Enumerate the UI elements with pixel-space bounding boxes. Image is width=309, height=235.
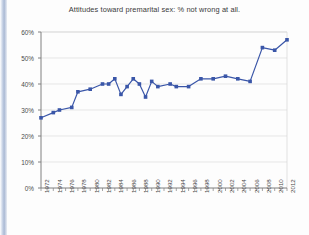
data-point-marker — [88, 87, 92, 91]
data-point-marker — [175, 85, 179, 89]
y-axis-tick-label: 50% — [12, 55, 34, 62]
x-axis-tick-label: 1980 — [93, 179, 100, 193]
data-point-marker — [236, 77, 240, 81]
data-point-marker — [144, 95, 148, 99]
data-point-marker — [187, 85, 191, 89]
data-point-marker — [113, 77, 117, 81]
y-axis-tick-label: 10% — [12, 159, 34, 166]
x-axis-tick-label: 2010 — [277, 179, 284, 193]
y-axis-tick-label: 40% — [12, 81, 34, 88]
y-axis-tick-label: 60% — [12, 29, 34, 36]
x-axis-tick-label: 2006 — [253, 179, 260, 193]
data-point-marker — [211, 77, 215, 81]
x-axis-tick-label: 1982 — [105, 179, 112, 193]
x-axis-tick-label: 1984 — [117, 179, 124, 193]
data-point-marker — [273, 48, 277, 52]
data-point-marker — [125, 85, 129, 89]
data-point-marker — [119, 93, 123, 97]
x-axis-tick-label: 2002 — [228, 179, 235, 193]
data-point-marker — [199, 77, 203, 81]
series-line — [41, 40, 287, 118]
x-axis-tick-label: 1972 — [43, 179, 50, 193]
data-point-marker — [150, 80, 154, 84]
x-axis-tick-label: 1978 — [80, 179, 87, 193]
data-point-marker — [138, 82, 142, 86]
plot-area: 0%10%20%30%40%50%60%19721974197619781980… — [0, 0, 309, 235]
y-axis-tick-label: 0% — [12, 185, 34, 192]
data-point-marker — [248, 80, 252, 84]
data-point-marker — [261, 46, 265, 50]
x-axis-tick-label: 2000 — [216, 179, 223, 193]
x-axis-tick-label: 2012 — [289, 179, 296, 193]
data-point-marker — [224, 74, 228, 78]
chart-figure: Attitudes toward premarital sex: % not w… — [0, 0, 309, 235]
x-axis-tick-label: 1988 — [142, 179, 149, 193]
y-axis-tick-label: 20% — [12, 133, 34, 140]
x-axis-tick-label: 1992 — [166, 179, 173, 193]
data-point-marker — [168, 82, 172, 86]
data-point-marker — [39, 116, 43, 120]
x-axis-tick-label: 1976 — [68, 179, 75, 193]
data-point-marker — [58, 108, 62, 112]
chart-svg — [0, 0, 309, 235]
data-point-marker — [101, 82, 105, 86]
x-axis-tick-label: 1996 — [191, 179, 198, 193]
data-point-marker — [52, 111, 56, 115]
x-axis-tick-label: 2008 — [265, 179, 272, 193]
data-point-marker — [107, 82, 111, 86]
x-axis-tick-label: 2004 — [240, 179, 247, 193]
x-axis-tick-label: 1994 — [179, 179, 186, 193]
data-point-marker — [285, 38, 289, 42]
x-axis-tick-label: 1990 — [154, 179, 161, 193]
data-point-marker — [156, 85, 160, 89]
data-point-marker — [76, 90, 80, 94]
x-axis-tick-label: 1986 — [130, 179, 137, 193]
x-axis-tick-label: 1998 — [203, 179, 210, 193]
data-point-marker — [131, 77, 135, 81]
x-axis-tick-label: 1974 — [56, 179, 63, 193]
data-point-marker — [70, 106, 74, 110]
y-axis-tick-label: 30% — [12, 107, 34, 114]
